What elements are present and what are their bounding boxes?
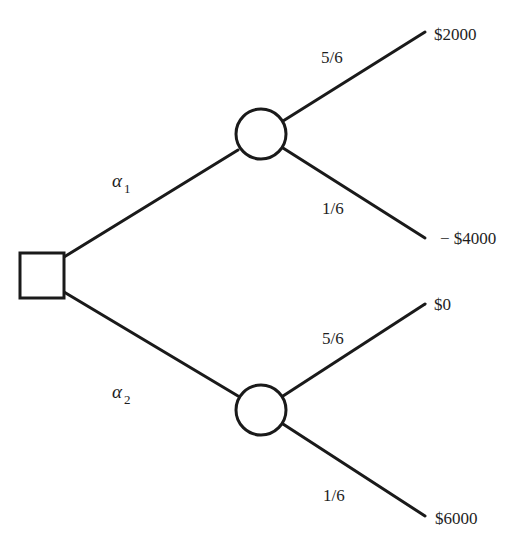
- edge-a2-outcome-1: [283, 304, 425, 396]
- alternative-2-label: α2: [112, 381, 130, 407]
- probability-a2-outcome-2: 1/6: [323, 486, 345, 505]
- decision-tree-svg: α1 α2 5/6 1/6 5/6 1/6 $2000 − $4000 $0 $…: [0, 0, 524, 551]
- probability-a1-outcome-1: 5/6: [321, 48, 343, 67]
- edge-a1-outcome-2: [283, 148, 425, 238]
- edge-a2-outcome-2: [283, 424, 425, 516]
- edge-alternative-2: [64, 292, 238, 396]
- payoff-a2-outcome-2: $6000: [435, 509, 478, 528]
- edge-alternative-1: [64, 150, 238, 257]
- decision-node-square: [20, 253, 64, 298]
- payoff-a1-outcome-2: − $4000: [440, 229, 496, 248]
- chance-node-circle-1: [236, 109, 286, 159]
- chance-node-circle-2: [236, 385, 286, 435]
- probability-a2-outcome-1: 5/6: [322, 329, 344, 348]
- decision-tree-diagram: α1 α2 5/6 1/6 5/6 1/6 $2000 − $4000 $0 $…: [0, 0, 524, 551]
- payoff-a1-outcome-1: $2000: [434, 25, 477, 44]
- edge-a1-outcome-1: [283, 32, 425, 121]
- probability-a1-outcome-2: 1/6: [322, 199, 344, 218]
- payoff-a2-outcome-1: $0: [434, 295, 451, 314]
- alternative-1-label: α1: [112, 170, 130, 196]
